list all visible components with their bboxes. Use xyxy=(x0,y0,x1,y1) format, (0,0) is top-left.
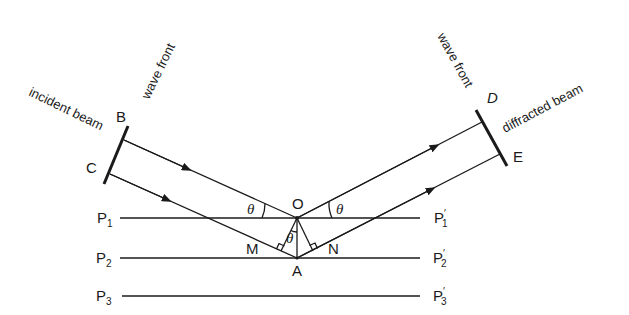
diffracted-beam-label: diffracted beam xyxy=(499,80,585,135)
lattice-planes xyxy=(120,218,420,296)
ray-c-arrow xyxy=(110,174,168,200)
bragg-diagram: B C D E O A M N θ θ θ P1 P2 P3 P′1 P′2 P… xyxy=(0,0,629,315)
wave-front-right-label: wave front xyxy=(434,29,477,90)
theta-arc-right xyxy=(329,202,332,219)
incident-rays xyxy=(110,140,297,258)
theta-center: θ xyxy=(286,230,294,246)
label-e: E xyxy=(513,148,523,165)
label-m: M xyxy=(246,240,259,257)
svg-text:P1: P1 xyxy=(97,209,113,229)
incident-wave-front xyxy=(104,126,128,184)
ray-o-arrow xyxy=(297,146,436,218)
svg-text:P′2: P′2 xyxy=(433,248,447,269)
plane-labels-right: P′1 P′2 P′3 xyxy=(433,208,448,307)
label-b: B xyxy=(116,108,126,125)
svg-text:P2: P2 xyxy=(96,249,112,269)
label-d: D xyxy=(487,89,498,106)
theta-left: θ xyxy=(247,201,255,217)
diffracted-rays xyxy=(297,122,500,258)
theta-arc-left xyxy=(262,204,265,219)
svg-text:P′1: P′1 xyxy=(434,208,448,229)
svg-text:P3: P3 xyxy=(96,287,112,307)
label-o: O xyxy=(292,195,304,212)
line-o-n xyxy=(297,218,313,251)
wave-front-left-label: wave front xyxy=(138,40,178,102)
point-a xyxy=(295,256,298,259)
svg-text:P′3: P′3 xyxy=(433,286,447,307)
diffracted-wave-front xyxy=(476,110,507,166)
label-a: A xyxy=(292,262,302,279)
theta-right: θ xyxy=(336,201,344,217)
plane-labels-left: P1 P2 P3 xyxy=(96,209,113,307)
label-c: C xyxy=(86,159,97,176)
incident-beam-label: incident beam xyxy=(27,84,106,133)
point-o xyxy=(295,216,299,220)
ray-b-arrow xyxy=(124,140,188,169)
label-n: N xyxy=(328,240,339,257)
